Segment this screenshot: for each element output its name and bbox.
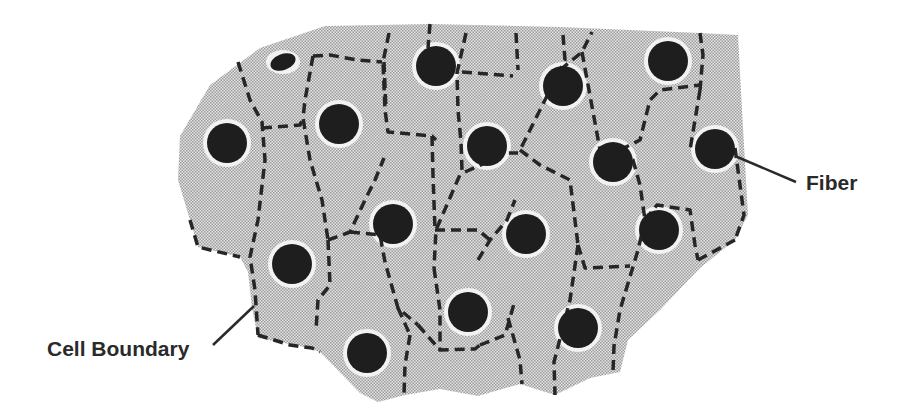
fiber [543,66,583,106]
fiber-label: Fiber [806,171,857,195]
fiber [347,333,387,373]
fiber [416,46,456,86]
fiber [695,129,735,169]
fiber [506,214,546,254]
fiber [319,104,359,144]
fiber [373,204,413,244]
cell-boundary-leader-line [213,306,254,345]
fiber [648,41,688,81]
fiber [448,292,488,332]
fiber [593,142,633,182]
fiber [558,308,598,348]
cell-boundary-label: Cell Boundary [47,337,189,361]
fiber [639,210,679,250]
fiber [207,123,247,163]
fiber [467,126,507,166]
fiber [272,244,312,284]
cell-boundary [384,62,386,110]
